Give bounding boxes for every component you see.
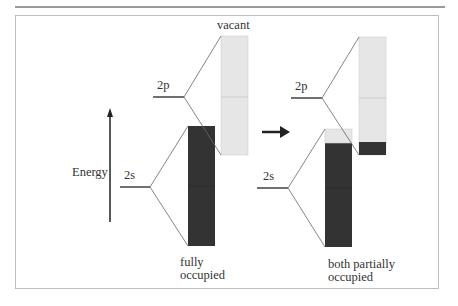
right-2p-label: 2p bbox=[295, 80, 308, 93]
left-2p-label: 2p bbox=[157, 79, 170, 92]
energy-axis-label: Energy bbox=[72, 166, 108, 179]
right-arrow-icon bbox=[262, 126, 290, 138]
right-2p-band-occupied bbox=[359, 142, 386, 155]
left-2s-label: 2s bbox=[124, 169, 135, 182]
right-2s-band-vacant bbox=[325, 129, 352, 143]
right-panel bbox=[257, 37, 386, 247]
left-panel bbox=[120, 36, 248, 246]
left-bottom-label-line2: occupied bbox=[180, 269, 225, 282]
vacant-label: vacant bbox=[217, 19, 250, 32]
right-2p-band bbox=[359, 37, 386, 155]
right-2s-label: 2s bbox=[263, 170, 274, 183]
right-bottom-label-line2: occupied bbox=[328, 271, 373, 284]
left-2p-band bbox=[221, 36, 248, 155]
